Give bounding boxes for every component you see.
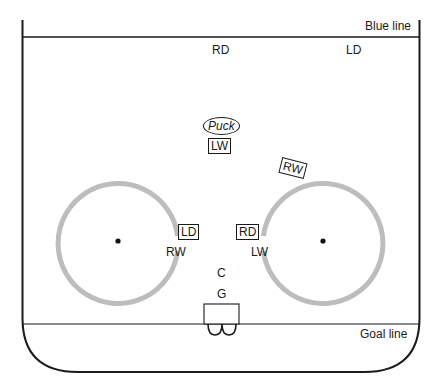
goal-crease [204, 304, 239, 324]
player-ld-boxed: LD [178, 224, 199, 240]
hockey-rink-diagram: Blue line Goal line RD LD Puck LW RW LD … [0, 0, 437, 389]
player-lw-boxed-center: LW [208, 138, 231, 154]
player-rd-top: RD [212, 44, 229, 56]
left-faceoff-dot [115, 238, 120, 243]
player-center: C [217, 267, 226, 279]
goal-net [208, 324, 236, 335]
player-rd-boxed: RD [236, 224, 259, 240]
blue-line-label: Blue line [365, 20, 411, 32]
right-faceoff-dot [320, 238, 325, 243]
puck-marker: Puck [203, 117, 240, 135]
player-lw-right-circle: LW [251, 246, 268, 258]
goal-line-label: Goal line [360, 328, 407, 340]
player-goalie: G [217, 288, 226, 300]
player-rw-left-circle: RW [166, 246, 186, 258]
player-ld-top: LD [346, 44, 361, 56]
